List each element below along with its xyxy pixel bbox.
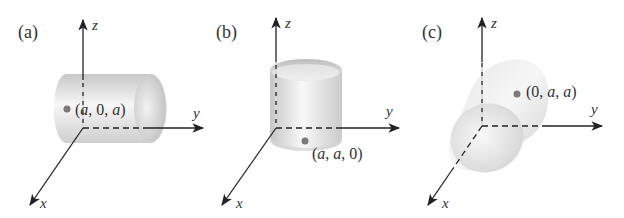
point-c-label: (0, a, a) <box>526 83 577 101</box>
z-axis-label-a: z <box>91 17 98 33</box>
x-axis-label-a: x <box>39 195 47 211</box>
x-axis-a <box>30 128 83 205</box>
y-axis-label-c: y <box>589 101 598 117</box>
z-axis-label-c: z <box>490 15 497 31</box>
panel-c-label: (c) <box>422 22 442 43</box>
cylinder-c <box>439 60 548 185</box>
point-b <box>302 138 309 145</box>
point-a <box>64 106 71 113</box>
panel-a-label: (a) <box>18 22 38 43</box>
point-c <box>514 91 521 98</box>
panel-c: (c) z y x (0, a, a) <box>422 15 602 211</box>
point-a-label: (a, 0, a) <box>75 101 126 119</box>
cylinder-b <box>270 59 342 151</box>
z-axis-label-b: z <box>284 15 291 31</box>
panel-b-label: (b) <box>216 22 237 43</box>
panel-a: (a) z y x (a, 0, a) <box>18 17 203 211</box>
x-axis-label-c: x <box>441 195 449 211</box>
x-axis-label-b: x <box>235 195 243 211</box>
x-axis-b <box>222 128 276 205</box>
figure-canvas: (a) z y x (a, 0, a) (b) <box>0 0 624 218</box>
point-b-label: (a, a, 0) <box>312 145 363 163</box>
panel-b: (b) z y x (a, a, 0) <box>216 15 399 211</box>
y-axis-label-b: y <box>384 103 393 119</box>
y-axis-label-a: y <box>191 105 200 121</box>
